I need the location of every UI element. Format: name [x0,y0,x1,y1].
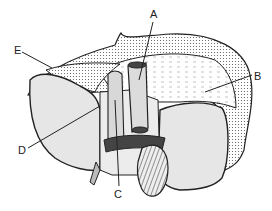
inferior-vena-cava [128,63,148,132]
label-C: C [114,188,122,200]
label-E: E [14,44,21,56]
gallbladder [138,145,169,196]
leader-E [22,52,52,68]
right-lobe [158,103,228,190]
label-A: A [150,8,158,20]
label-D: D [18,144,26,156]
label-B: B [254,70,261,82]
liver-diagram: A B C D E [0,0,272,211]
